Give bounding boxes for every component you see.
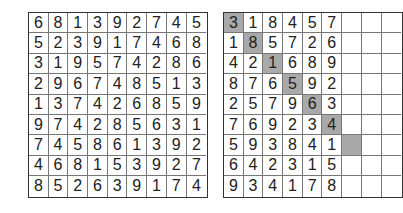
- grid-cell: [362, 156, 382, 176]
- grid-cell: 6: [147, 115, 167, 135]
- grid-cell: 8: [147, 95, 167, 115]
- grid-cell: 3: [244, 176, 264, 196]
- grid-cell: 8: [167, 54, 187, 74]
- grid-cell: [342, 176, 362, 196]
- grid-cell: 2: [68, 176, 88, 196]
- grid-cell: 3: [29, 54, 49, 74]
- grid-cell: 1: [127, 135, 147, 155]
- grid-cell: 9: [68, 54, 88, 74]
- grid-cell: 6: [303, 95, 323, 115]
- grid-cell: 3: [147, 135, 167, 155]
- grid-cell: 3: [68, 33, 88, 53]
- grid-cell: 4: [303, 135, 323, 155]
- grid-cell: [342, 74, 362, 94]
- grid-cell: 6: [283, 54, 303, 74]
- grid-cell: 6: [224, 156, 244, 176]
- grid-cell: [382, 74, 402, 94]
- grid-cell: 2: [244, 54, 264, 74]
- grid-cell: 9: [322, 54, 342, 74]
- grid-cell: [342, 156, 362, 176]
- grid-cell: 4: [167, 13, 187, 33]
- grid-cell: 9: [187, 95, 207, 115]
- grid-cell: [342, 13, 362, 33]
- grid-cell: [362, 115, 382, 135]
- grid-cell: 9: [88, 33, 108, 53]
- grid-cell: 5: [127, 115, 147, 135]
- grid-cell: 4: [49, 135, 69, 155]
- grid-cell: [382, 176, 402, 196]
- grid-cell: [342, 135, 362, 155]
- grid-cell: 7: [127, 33, 147, 53]
- grid-cell: 3: [167, 115, 187, 135]
- grid-cell: 9: [283, 95, 303, 115]
- grid-cell: 6: [49, 156, 69, 176]
- grid-cell: 1: [29, 95, 49, 115]
- grid-cell: [362, 74, 382, 94]
- grid-cell: 5: [224, 135, 244, 155]
- grid-cell: 7: [147, 13, 167, 33]
- grid-cell: 5: [147, 74, 167, 94]
- grid-cell: 2: [303, 33, 323, 53]
- grid-cell: 2: [224, 95, 244, 115]
- grid-cell: 8: [108, 115, 128, 135]
- grid-cell: 7: [88, 74, 108, 94]
- grid-cell: [362, 176, 382, 196]
- grid-cell: [382, 115, 402, 135]
- grid-cell: [382, 95, 402, 115]
- grid-cell: 8: [263, 13, 283, 33]
- grid-cell: 6: [68, 74, 88, 94]
- grid-cell: 9: [49, 74, 69, 94]
- grid-cell: 3: [283, 156, 303, 176]
- grid-cell: 9: [263, 115, 283, 135]
- grid-cell: 7: [108, 54, 128, 74]
- grid-cell: 8: [283, 135, 303, 155]
- grid-cell: 8: [187, 33, 207, 53]
- grid-cell: [382, 135, 402, 155]
- grid-cell: 5: [263, 33, 283, 53]
- grid-cell: 9: [303, 74, 323, 94]
- grid-cell: 4: [224, 54, 244, 74]
- grid-cell: 4: [263, 176, 283, 196]
- grid-cell: 5: [244, 95, 264, 115]
- grid-cell: 1: [49, 54, 69, 74]
- grid-cell: 5: [29, 33, 49, 53]
- grid-cell: 3: [49, 95, 69, 115]
- grid-cell: 4: [244, 156, 264, 176]
- grid-cell: 1: [244, 13, 264, 33]
- grid-cell: 2: [283, 115, 303, 135]
- grid-cell: 3: [187, 74, 207, 94]
- grid-cell: 1: [283, 176, 303, 196]
- grid-cell: 1: [187, 115, 207, 135]
- grid-cell: 6: [127, 95, 147, 115]
- grid-cell: 4: [147, 33, 167, 53]
- grid-cell: 1: [224, 33, 244, 53]
- grid-cell: 7: [283, 33, 303, 53]
- grid-cell: 1: [88, 156, 108, 176]
- grid-cell: [362, 33, 382, 53]
- grid-cell: 4: [88, 95, 108, 115]
- grid-cell: 3: [224, 13, 244, 33]
- grid-cell: [382, 13, 402, 33]
- grid-cell: 1: [167, 74, 187, 94]
- grid-cell: [342, 95, 362, 115]
- grid-cell: 1: [263, 54, 283, 74]
- grid-cell: 6: [263, 74, 283, 94]
- grid-cell: 9: [167, 135, 187, 155]
- grid-cell: 8: [88, 135, 108, 155]
- grid-cell: 3: [127, 156, 147, 176]
- grid-cell: 7: [303, 176, 323, 196]
- grid-cell: 5: [167, 95, 187, 115]
- grid-cell: 8: [303, 54, 323, 74]
- grid-cell: 4: [283, 13, 303, 33]
- grid-cell: [342, 54, 362, 74]
- grid-cell: 1: [108, 33, 128, 53]
- grid-cell: 1: [147, 176, 167, 196]
- grid-cell: 7: [29, 135, 49, 155]
- grid-cell: 8: [49, 13, 69, 33]
- grid-cell: 2: [147, 54, 167, 74]
- grid-cell: 9: [108, 13, 128, 33]
- grid-cell: 7: [322, 13, 342, 33]
- grid-cell: 6: [88, 176, 108, 196]
- grid-cell: 7: [187, 156, 207, 176]
- grid-cell: 2: [263, 156, 283, 176]
